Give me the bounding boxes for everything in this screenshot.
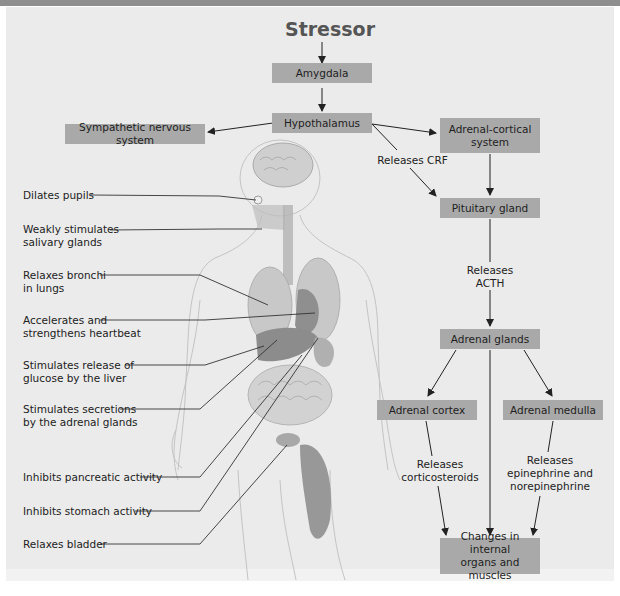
hypothalamus-label: Hypothalamus <box>284 117 360 130</box>
callout-line-2: in lungs <box>23 282 106 295</box>
callout-line-1: Stimulates secretions <box>23 403 138 416</box>
callout-line-1: Accelerates and <box>23 314 141 327</box>
sympathetic-label: Sympathetic nervous system <box>69 121 201 147</box>
releases-epinephrine-line-2: epinephrine and <box>500 467 600 480</box>
releases-corticosteroids-line-1: Releases <box>395 458 485 471</box>
callout-line-2: by the adrenal glands <box>23 416 138 429</box>
adrenal-glands-box: Adrenal glands <box>440 329 540 349</box>
changes-label-1: Changes in internal <box>444 530 536 556</box>
adrenal-cortical-system-box: Adrenal-cortical system <box>440 118 540 153</box>
callout-bronchi: Relaxes bronchi in lungs <box>23 269 106 295</box>
callout-line-1: Weakly stimulates <box>23 223 119 236</box>
callout-line-1: Stimulates release of <box>23 359 134 372</box>
callout-dilates-pupils: Dilates pupils <box>23 189 94 202</box>
stressor-title: Stressor <box>260 18 400 40</box>
adrenal-medulla-box: Adrenal medulla <box>503 400 603 420</box>
amygdala-label: Amygdala <box>296 67 349 80</box>
callout-adrenal-secretions: Stimulates secretions by the adrenal gla… <box>23 403 138 429</box>
callout-pancreatic: Inhibits pancreatic activity <box>23 471 162 484</box>
callout-stomach: Inhibits stomach activity <box>23 505 152 518</box>
releases-epinephrine-line-3: norepinephrine <box>500 480 600 493</box>
callout-line-1: Relaxes bronchi <box>23 269 106 282</box>
callout-line-2: glucose by the liver <box>23 372 134 385</box>
adrenal-cortex-box: Adrenal cortex <box>377 400 477 420</box>
callout-line-2: salivary glands <box>23 236 119 249</box>
releases-corticosteroids-label: Releases corticosteroids <box>395 458 485 484</box>
changes-box: Changes in internal organs and muscles <box>440 538 540 574</box>
adrenal-cortical-label-1: Adrenal-cortical <box>449 123 532 136</box>
callout-line-2: strengthens heartbeat <box>23 327 141 340</box>
amygdala-box: Amygdala <box>272 63 372 83</box>
callout-line-1: Inhibits stomach activity <box>23 505 152 518</box>
adrenal-cortical-label-2: system <box>471 136 509 149</box>
changes-label-2: organs and muscles <box>444 556 536 582</box>
adrenal-medulla-label: Adrenal medulla <box>510 404 596 417</box>
pituitary-label: Pituitary gland <box>452 202 528 215</box>
callout-bladder: Relaxes bladder <box>23 538 107 551</box>
releases-acth-label: Releases ACTH <box>452 264 528 290</box>
releases-crf-label: Releases CRF <box>375 154 450 167</box>
sympathetic-nervous-system-box: Sympathetic nervous system <box>65 124 205 144</box>
callout-heartbeat: Accelerates and strengthens heartbeat <box>23 314 141 340</box>
callout-line-1: Inhibits pancreatic activity <box>23 471 162 484</box>
releases-corticosteroids-line-2: corticosteroids <box>395 471 485 484</box>
releases-epinephrine-label: Releases epinephrine and norepinephrine <box>500 454 600 493</box>
callout-line-1: Relaxes bladder <box>23 538 107 551</box>
hypothalamus-box: Hypothalamus <box>272 113 372 133</box>
callout-line-1: Dilates pupils <box>23 189 94 202</box>
callout-glucose-liver: Stimulates release of glucose by the liv… <box>23 359 134 385</box>
adrenal-glands-label: Adrenal glands <box>451 333 529 346</box>
adrenal-cortex-label: Adrenal cortex <box>389 404 466 417</box>
callout-salivary-glands: Weakly stimulates salivary glands <box>23 223 119 249</box>
releases-epinephrine-line-1: Releases <box>500 454 600 467</box>
pituitary-gland-box: Pituitary gland <box>440 198 540 218</box>
